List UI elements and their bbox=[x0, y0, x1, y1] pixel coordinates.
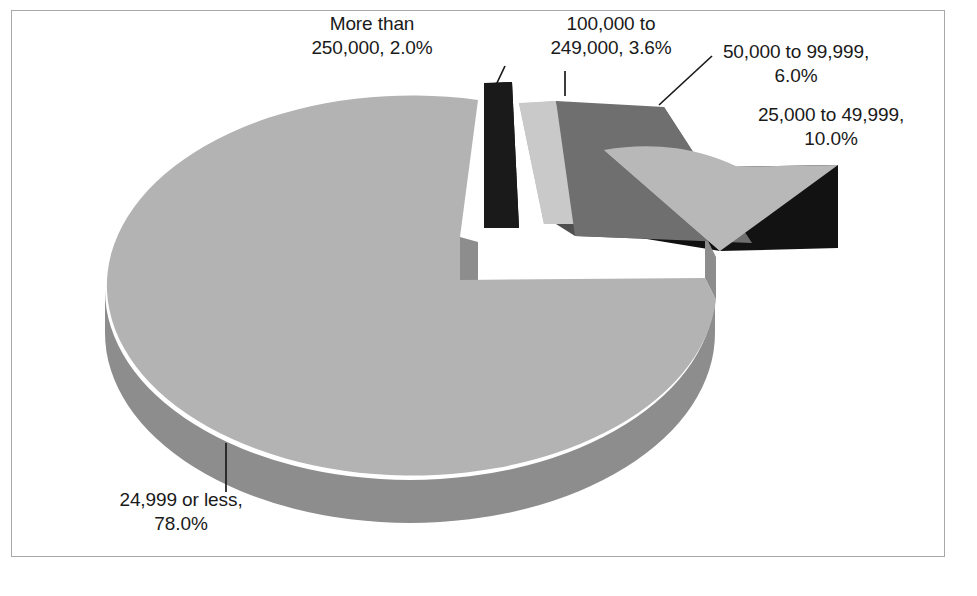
chart-page: More than 250,000, 2.0% 100,000 to 249,0… bbox=[0, 0, 977, 596]
data-label-more-than-250k: More than 250,000, 2.0% bbox=[252, 12, 492, 59]
data-label-50k-99999: 50,000 to 99,999, 6.0% bbox=[666, 40, 926, 87]
leader-line-more-than-250k bbox=[496, 66, 505, 85]
slice-top-more-than-250k bbox=[484, 82, 519, 228]
data-label-25k-49999: 25,000 to 49,999, 10.0% bbox=[700, 103, 962, 150]
data-label-24999-or-less: 24,999 or less, 78.0% bbox=[50, 488, 312, 535]
